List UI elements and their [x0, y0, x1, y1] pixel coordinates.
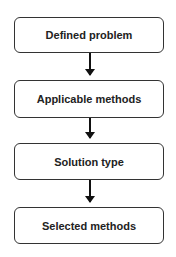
node-label: Applicable methods	[37, 93, 142, 105]
arrow-down-icon	[89, 53, 91, 75]
arrow-down-icon	[89, 180, 91, 202]
node-label: Solution type	[54, 156, 124, 168]
node-label: Selected methods	[42, 220, 136, 232]
arrow-down-icon	[89, 118, 91, 138]
node-label: Defined problem	[46, 29, 133, 41]
node-applicable-methods: Applicable methods	[14, 80, 164, 118]
node-solution-type: Solution type	[14, 143, 164, 180]
node-selected-methods: Selected methods	[14, 207, 164, 244]
node-defined-problem: Defined problem	[14, 17, 164, 53]
